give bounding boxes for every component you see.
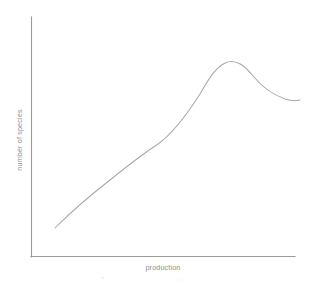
y-axis-label: number of species xyxy=(15,109,24,171)
species-richness-curve xyxy=(55,61,300,228)
x-axis-label: production xyxy=(145,263,180,272)
scan-speck xyxy=(178,279,180,281)
species-production-chart: production number of species xyxy=(0,0,315,286)
chart-figure: production number of species xyxy=(0,0,315,286)
scan-speck xyxy=(101,276,104,279)
